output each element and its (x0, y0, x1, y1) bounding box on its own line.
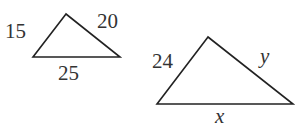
large-triangle-base-label: x (215, 106, 224, 127)
small-triangle-left-side-label: 15 (5, 21, 26, 42)
large-triangle-left-side-label: 24 (152, 51, 173, 72)
small-triangle-base-label: 25 (58, 63, 79, 84)
large-triangle-right-side-label: y (260, 46, 269, 67)
large-triangle (157, 37, 293, 104)
small-triangle-right-side-label: 20 (97, 11, 118, 32)
